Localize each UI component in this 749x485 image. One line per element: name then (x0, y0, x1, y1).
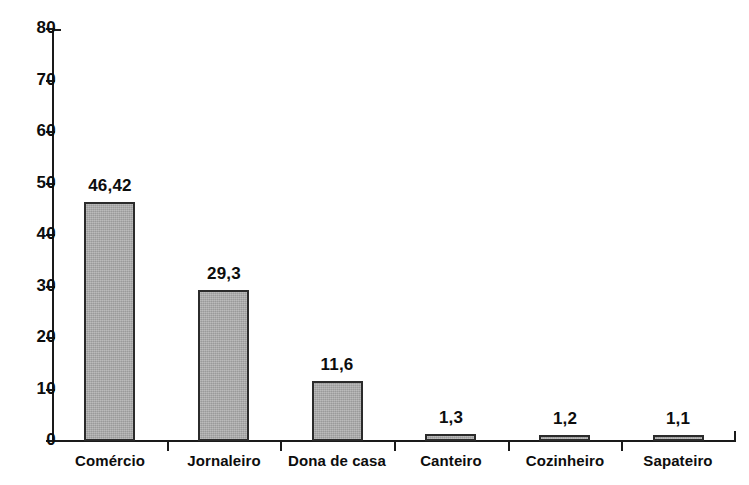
bar (198, 290, 249, 441)
x-axis-tick (508, 442, 510, 451)
y-axis-tick-label: 30 (14, 276, 56, 296)
y-axis-tick-label: 80 (14, 18, 56, 38)
bar (312, 381, 363, 441)
x-axis-category-label: Sapateiro (608, 452, 748, 469)
y-axis-tick-label: 20 (14, 327, 56, 347)
y-axis-tick-label: 0 (14, 430, 56, 450)
bar (425, 434, 476, 441)
x-axis-tick (621, 442, 623, 451)
y-axis-tick-label: 40 (14, 224, 56, 244)
bar (653, 435, 704, 441)
y-axis-tick-label: 70 (14, 70, 56, 90)
x-axis-tick (167, 442, 169, 451)
y-axis-tick-label: 10 (14, 379, 56, 399)
bar-value-label: 29,3 (164, 264, 284, 284)
bar (84, 202, 135, 441)
bar (539, 435, 590, 441)
bar-value-label: 11,6 (277, 355, 397, 375)
bar-chart: 01020304050607080 46,42Comércio29,3Jorna… (0, 0, 749, 485)
x-axis-tick (394, 442, 396, 451)
bar-value-label: 46,42 (50, 176, 170, 196)
bar-value-label: 1,3 (391, 408, 511, 428)
x-axis-tick (280, 442, 282, 451)
x-axis-right-cap (734, 431, 736, 442)
bar-value-label: 1,1 (618, 409, 738, 429)
bar-value-label: 1,2 (505, 409, 625, 429)
y-axis-tick-label: 60 (14, 121, 56, 141)
